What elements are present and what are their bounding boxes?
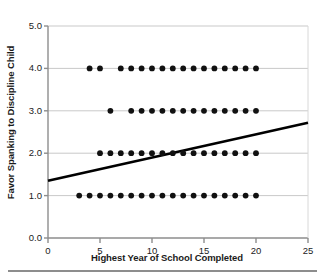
y-tick-label: 1.0 [18,190,42,201]
data-point [87,193,93,199]
plot-area [0,0,325,279]
data-point [222,150,228,156]
data-point [212,193,218,199]
data-point [170,193,176,199]
data-point [118,66,124,72]
data-point [201,108,207,114]
axes [44,26,308,243]
data-point [160,150,166,156]
data-point [180,150,186,156]
y-tick-label: 4.0 [18,62,42,73]
data-point [170,108,176,114]
data-point [212,150,218,156]
data-points [76,66,259,199]
data-point [191,66,197,72]
data-point [232,150,238,156]
data-point [180,108,186,114]
data-point [97,66,103,72]
bottom-divider [8,270,317,272]
data-point [253,150,259,156]
data-point [191,193,197,199]
data-point [222,108,228,114]
data-point [149,150,155,156]
data-point [191,108,197,114]
data-point [118,193,124,199]
data-point [243,193,249,199]
data-point [243,150,249,156]
data-point [253,66,259,72]
data-point [191,150,197,156]
data-point [212,108,218,114]
data-point [149,193,155,199]
y-tick-label: 2.0 [18,147,42,158]
data-point [232,66,238,72]
data-point [253,108,259,114]
data-point [87,66,93,72]
data-point [139,150,145,156]
data-point [232,193,238,199]
data-point [118,150,124,156]
data-point [128,193,134,199]
data-point [139,193,145,199]
data-point [222,193,228,199]
data-point [139,66,145,72]
y-tick-label: 5.0 [18,20,42,31]
y-tick-label: 3.0 [18,105,42,116]
data-point [149,66,155,72]
data-point [243,108,249,114]
data-point [170,150,176,156]
data-point [128,150,134,156]
x-axis-title: Highest Year of School Completed [22,252,312,263]
data-point [180,193,186,199]
data-point [139,108,145,114]
data-point [128,66,134,72]
data-point [160,108,166,114]
data-point [76,193,82,199]
data-point [243,66,249,72]
data-point [253,193,259,199]
data-point [201,150,207,156]
data-point [170,66,176,72]
data-point [222,66,228,72]
data-point [108,150,114,156]
scatter-plot-figure: Favor Spanking to Discipline Child 0.01.… [0,0,325,279]
data-point [108,193,114,199]
data-point [97,150,103,156]
data-point [160,66,166,72]
data-point [128,108,134,114]
gridlines [48,26,308,196]
data-point [201,193,207,199]
data-point [212,66,218,72]
regression-line [48,123,308,181]
data-point [201,66,207,72]
data-point [97,193,103,199]
data-point [160,193,166,199]
data-point [180,66,186,72]
data-point [149,108,155,114]
data-point [232,108,238,114]
y-tick-label: 0.0 [18,232,42,243]
data-point [108,108,114,114]
